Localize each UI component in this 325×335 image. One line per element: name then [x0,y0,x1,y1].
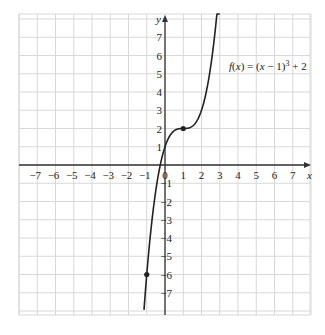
x-tick-label: −7 [29,169,41,181]
x-tick-label: −1 [139,169,151,181]
data-point [181,126,186,131]
x-tick-label: −4 [84,169,96,181]
y-tick-label: 3 [157,104,163,116]
y-tick-label: −6 [160,269,172,281]
y-tick-label: −7 [160,287,172,299]
x-tick-label: 7 [290,169,296,181]
x-tick-label: −3 [102,169,114,181]
x-tick-label: 4 [235,169,241,181]
y-tick-label: 4 [157,86,163,98]
y-tick-label: −5 [160,250,172,262]
data-point [144,272,149,277]
x-tick-label: 2 [199,169,205,181]
y-tick-label: −3 [160,214,172,226]
y-tick-label: 5 [157,68,163,80]
y-tick-label: −2 [160,196,172,208]
x-tick-label: 1 [181,169,187,181]
function-curve [144,14,220,310]
x-tick-label: 6 [272,169,278,181]
x-tick-label: 3 [217,169,223,181]
y-tick-label: 6 [157,50,163,62]
x-tick-label: −5 [66,169,78,181]
y-tick-label: 1 [157,141,163,153]
function-label: f(x) = (x − 1)3 + 2 [229,59,307,73]
y-tick-label: −4 [160,232,172,244]
function-graph: xy−7−6−5−4−3−2−101234567−7−6−5−4−3−2−112… [0,0,325,335]
y-tick-label: 2 [157,123,163,135]
x-tick-label: 5 [254,169,260,181]
y-tick-label: −1 [160,177,172,189]
x-axis-label: x [306,169,312,181]
y-axis-label: y [155,13,161,25]
y-tick-label: 7 [157,31,163,43]
x-tick-label: −6 [48,169,60,181]
x-tick-label: −2 [121,169,133,181]
